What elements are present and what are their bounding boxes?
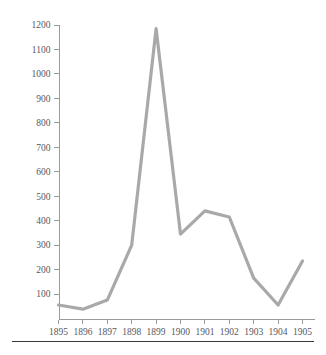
x-axis-tick-label: 1900: [171, 327, 190, 337]
y-axis-tick-label: 900: [36, 94, 51, 104]
chart-figure: 100200300400500600700800900100011001200 …: [0, 0, 326, 355]
y-axis-tick-label: 1200: [32, 20, 51, 30]
x-axis-tick-label: 1901: [195, 327, 214, 337]
x-axis-tick-label: 1903: [244, 327, 263, 337]
x-axis-tick-label: 1897: [98, 327, 117, 337]
x-axis-tick-label: 1905: [293, 327, 312, 337]
chart-axes: [54, 25, 315, 324]
data-series-group: [59, 29, 303, 309]
y-axis-tick-label: 700: [36, 143, 51, 153]
y-axis-tick-label: 400: [36, 216, 51, 226]
x-axis-tick-label: 1895: [49, 327, 68, 337]
x-axis-tick-label: 1899: [147, 327, 166, 337]
y-axis-tick-label: 100: [36, 289, 51, 299]
y-axis-tick-label: 500: [36, 192, 51, 202]
line-chart-plot: 100200300400500600700800900100011001200 …: [0, 0, 326, 340]
y-axis-tick-label: 1000: [32, 69, 51, 79]
y-axis-tick-labels: 100200300400500600700800900100011001200: [32, 20, 51, 299]
y-axis-tick-label: 1100: [32, 45, 51, 55]
y-axis-tick-label: 600: [36, 167, 51, 177]
x-axis-tick-label: 1898: [122, 327, 141, 337]
y-axis-tick-label: 200: [36, 265, 51, 275]
x-axis-tick-label: 1904: [269, 327, 288, 337]
y-axis-tick-label: 300: [36, 240, 51, 250]
data-series-line: [59, 29, 303, 309]
y-axis-tick-label: 800: [36, 118, 51, 128]
x-axis-tick-label: 1902: [220, 327, 239, 337]
bottom-divider-rule: [12, 341, 314, 342]
x-axis-tick-labels: 1895189618971898189919001901190219031904…: [49, 327, 312, 337]
x-axis-tick-label: 1896: [73, 327, 92, 337]
